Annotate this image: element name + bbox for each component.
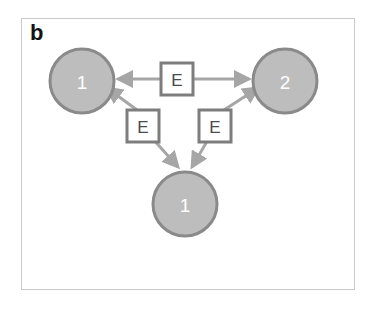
node-right-label: 2 xyxy=(280,72,291,93)
node-bottom-label: 1 xyxy=(180,195,191,216)
edge-box-top-label: E xyxy=(171,71,182,90)
edge-box-lower-left-label: E xyxy=(137,118,148,137)
node-left-label: 1 xyxy=(77,72,88,93)
node-left[interactable]: 1 xyxy=(50,49,114,113)
edge-lower-right-to-right xyxy=(224,88,258,110)
edge-box-lower-left[interactable]: E xyxy=(127,110,159,142)
edge-box-lower-right-label: E xyxy=(209,118,220,137)
edge-box-top[interactable]: E xyxy=(161,63,193,95)
node-right[interactable]: 2 xyxy=(253,49,317,113)
node-bottom[interactable]: 1 xyxy=(153,172,217,236)
diagram-canvas: 1 2 1 E E E xyxy=(0,0,373,311)
figure-root: b 1 2 1 xyxy=(0,0,373,311)
edge-box-lower-right[interactable]: E xyxy=(199,110,231,142)
